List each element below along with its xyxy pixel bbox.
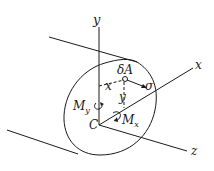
x-distance-label: x	[105, 80, 112, 92]
beam-bottom-edge	[7, 130, 78, 154]
stress-label: σ	[145, 80, 153, 92]
x-axis-line	[99, 68, 193, 125]
y-distance-label: y	[119, 91, 126, 103]
diagram-canvas: y x z C δA σ x y My Mx	[0, 0, 214, 171]
moment-x-label: Mx	[122, 114, 139, 129]
area-element-icon	[123, 77, 128, 82]
moment-x-symbol: M	[122, 113, 134, 127]
moment-x-subscript: x	[134, 120, 139, 129]
y-axis-label: y	[93, 13, 100, 26]
z-axis-label: z	[191, 145, 197, 157]
moment-y-subscript: y	[85, 106, 90, 115]
moment-y-symbol: M	[73, 99, 85, 113]
x-axis-label: x	[195, 59, 202, 71]
moment-x-arrowhead-icon	[114, 117, 118, 122]
z-axis-line	[99, 125, 187, 151]
moment-y-label: My	[73, 100, 90, 115]
centroid-label: C	[89, 119, 98, 131]
area-element-label: δA	[117, 64, 133, 76]
beam-top-edge	[49, 37, 137, 62]
